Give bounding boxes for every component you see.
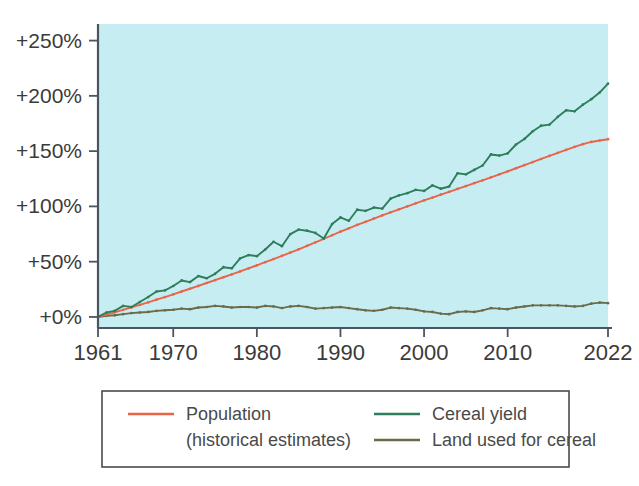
series-marker	[264, 305, 267, 308]
series-marker	[281, 254, 284, 257]
series-marker	[272, 258, 275, 261]
series-marker	[373, 217, 376, 220]
series-marker	[573, 146, 576, 149]
series-marker	[540, 124, 543, 127]
series-marker	[289, 305, 292, 308]
series-marker	[448, 190, 451, 193]
series-marker	[172, 285, 175, 288]
y-axis-tick-label: +100%	[16, 194, 82, 217]
series-marker	[297, 305, 300, 308]
series-marker	[556, 151, 559, 154]
series-marker	[147, 301, 150, 304]
series-marker	[113, 314, 116, 317]
series-marker	[406, 307, 409, 310]
series-marker	[506, 170, 509, 173]
series-marker	[356, 224, 359, 227]
series-marker	[214, 305, 217, 308]
series-marker	[414, 202, 417, 205]
chart-container: +0%+50%+100%+150%+200%+250% 196119701980…	[0, 0, 639, 486]
series-marker	[306, 306, 309, 309]
series-marker	[523, 305, 526, 308]
series-marker	[256, 255, 259, 258]
series-marker	[122, 309, 125, 312]
series-marker	[281, 307, 284, 310]
series-marker	[289, 233, 292, 236]
series-marker	[138, 311, 141, 314]
series-marker	[180, 279, 183, 282]
series-marker	[439, 187, 442, 190]
series-marker	[590, 302, 593, 305]
series-marker	[272, 305, 275, 308]
series-marker	[406, 192, 409, 195]
series-marker	[314, 232, 317, 235]
series-marker	[607, 82, 610, 85]
series-marker	[456, 172, 459, 175]
series-marker	[531, 304, 534, 307]
series-marker	[356, 308, 359, 311]
series-marker	[306, 229, 309, 232]
series-marker	[373, 206, 376, 209]
series-marker	[314, 307, 317, 310]
series-marker	[607, 302, 610, 305]
series-marker	[272, 240, 275, 243]
series-marker	[230, 306, 233, 309]
series-marker	[306, 245, 309, 248]
series-marker	[214, 279, 217, 282]
series-marker	[314, 241, 317, 244]
series-marker	[214, 272, 217, 275]
series-marker	[531, 130, 534, 133]
series-marker	[164, 289, 167, 292]
series-marker	[515, 306, 518, 309]
series-marker	[431, 184, 434, 187]
plot-background	[98, 24, 608, 328]
series-marker	[155, 310, 158, 313]
series-marker	[565, 305, 568, 308]
series-marker	[364, 209, 367, 212]
series-marker	[164, 309, 167, 312]
series-marker	[155, 298, 158, 301]
series-marker	[548, 155, 551, 158]
series-marker	[130, 306, 133, 309]
series-marker	[138, 304, 141, 307]
series-marker	[523, 164, 526, 167]
series-marker	[431, 311, 434, 314]
series-marker	[548, 123, 551, 126]
series-marker	[239, 306, 242, 309]
series-marker	[205, 306, 208, 309]
series-marker	[481, 164, 484, 167]
x-axis-tick-label: 2010	[483, 340, 532, 365]
series-marker	[523, 138, 526, 141]
series-marker	[598, 139, 601, 142]
series-marker	[398, 194, 401, 197]
series-marker	[439, 193, 442, 196]
series-marker	[448, 313, 451, 316]
x-axis-tick-label: 1961	[74, 340, 123, 365]
series-marker	[448, 185, 451, 188]
series-marker	[506, 308, 509, 311]
series-marker	[498, 173, 501, 176]
series-marker	[122, 305, 125, 308]
series-marker	[573, 305, 576, 308]
series-marker	[297, 228, 300, 231]
series-marker	[473, 311, 476, 314]
series-marker	[556, 304, 559, 307]
series-marker	[264, 248, 267, 251]
series-marker	[439, 312, 442, 315]
series-marker	[590, 141, 593, 144]
series-marker	[548, 304, 551, 307]
series-marker	[339, 230, 342, 233]
series-marker	[423, 190, 426, 193]
series-marker	[247, 254, 250, 257]
series-marker	[289, 251, 292, 254]
series-marker	[490, 307, 493, 310]
series-marker	[490, 153, 493, 156]
series-marker	[180, 290, 183, 293]
series-marker	[540, 158, 543, 161]
series-marker	[331, 306, 334, 309]
series-marker	[565, 148, 568, 151]
y-axis-tick-label: +0%	[39, 305, 82, 328]
series-marker	[331, 234, 334, 237]
series-marker	[197, 285, 200, 288]
series-marker	[515, 143, 518, 146]
series-marker	[498, 154, 501, 157]
